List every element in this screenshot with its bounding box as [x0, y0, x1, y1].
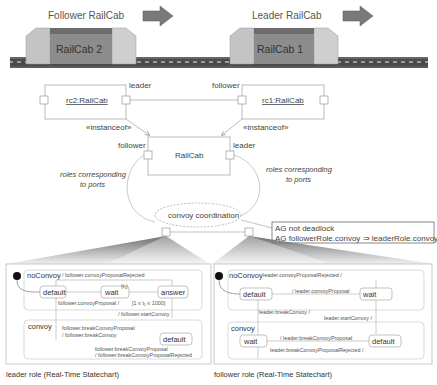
leader-convoy-default-label: default [163, 335, 186, 344]
railcab-1-label: RailCab 1 [257, 43, 303, 55]
follower-convoy-label: convoy [231, 324, 255, 333]
follower-rejected-label: leader.convoyProposalRejected / [263, 272, 342, 278]
rc2-port-label: leader [129, 81, 152, 90]
follower-role-statechart: noConvoy leader.convoyProposalRejected /… [214, 264, 432, 364]
leader-break-4: / follower.breakConvoyProposalRejected [95, 352, 192, 358]
roles-note-right-line2: to ports [286, 175, 311, 184]
roles-note-right-line1: roles corresponding [266, 165, 333, 174]
follower-port [144, 151, 152, 159]
leader-railcab-title: Leader RailCab [252, 10, 322, 21]
leader-break-1: follower.breakConvoyProposal [62, 325, 135, 331]
follower-break-proposal-label: / leader.breakConvoyProposal [280, 335, 352, 341]
rc1-instance: rc1:RailCab [238, 85, 328, 119]
follower-noconvoy-label: noConvoy [229, 271, 263, 280]
leader-guard-label: [1 ≤ t₁ ≤ 1000] [132, 300, 166, 306]
follower-convoy-default-label: default [372, 337, 395, 346]
instanceof-right-label: «instanceof» [243, 123, 289, 132]
rc2-instance: rc2:RailCab [40, 85, 130, 119]
follower-proposal-label: / leader.convoyProposal [292, 288, 350, 294]
rc2-leader-port [122, 96, 130, 104]
diagram-canvas: Follower RailCab Leader RailCab RailCab … [0, 0, 437, 385]
constraint-line-2: AG followerRole.convoy ⇒ leaderRole.conv… [275, 234, 437, 243]
follower-wait-label: wait [362, 290, 377, 299]
rc1-instance-name: rc1:RailCab [262, 96, 304, 105]
leader-break-2: / follower.breakConvoy [62, 332, 117, 338]
leader-role-caption: leader role (Real-Time Statechart) [6, 370, 120, 379]
leader-default-label: default [43, 288, 66, 297]
roles-note-left-line2: to ports [80, 180, 105, 189]
rc2-instance-name: rc2:RailCab [66, 96, 108, 105]
rc1-follower-port [238, 96, 246, 104]
follower-default-label: default [243, 290, 266, 299]
initial-state [215, 272, 223, 280]
railcab-2-vehicle: RailCab 2 [26, 28, 136, 64]
leader-convoy-label: convoy [28, 322, 52, 331]
follower-break-convoy-label: leader.breakConvoy / [259, 309, 310, 315]
instanceof-left-label: «instanceof» [86, 123, 132, 132]
direction-arrow-icon [343, 6, 373, 26]
follower-start-label: leader.startConvoy / [324, 315, 372, 321]
leader-answer-label: answer [161, 288, 186, 297]
pattern-name: convoy coordination [168, 211, 239, 220]
railcab-1-vehicle: RailCab 1 [230, 28, 338, 64]
railcab-2-label: RailCab 2 [56, 43, 102, 55]
rc1-port-label: follower [212, 81, 240, 90]
component-leader-port-label: leader [233, 141, 256, 150]
follower-role-caption: follower role (Real-Time Statechart) [214, 370, 333, 379]
constraint-line-1: AG not deadlock [275, 224, 335, 233]
leader-proposal-label: follower.convoyProposal / [58, 300, 120, 306]
railcab-component: RailCab [144, 137, 234, 175]
leader-role-statechart: noConvoy / follower.convoyProposalReject… [6, 264, 211, 364]
initial-state [13, 272, 21, 280]
leader-rejected-label: / follower.convoyProposalRejected [62, 272, 144, 278]
leader-port [226, 151, 234, 159]
direction-arrow-icon [143, 6, 173, 26]
leader-wait-label: wait [104, 288, 119, 297]
constraint-box: AG not deadlock AG followerRole.convoy ⇒… [272, 222, 437, 243]
leader-noconvoy-label: noConvoy [27, 271, 61, 280]
leader-start-label: / follower.startConvoy [118, 311, 170, 317]
roles-note-left-line1: roles corresponding [60, 170, 127, 179]
leader-clock-label: {t₁} [121, 283, 128, 289]
railcab-component-name: RailCab [175, 151, 204, 160]
follower-railcab-title: Follower RailCab [48, 10, 125, 21]
follower-break-rejected-label: leader.breakConvoyProposalRejected / [270, 347, 364, 353]
follower-convoy-wait-label: wait [243, 337, 258, 346]
component-follower-port-label: follower [118, 141, 146, 150]
